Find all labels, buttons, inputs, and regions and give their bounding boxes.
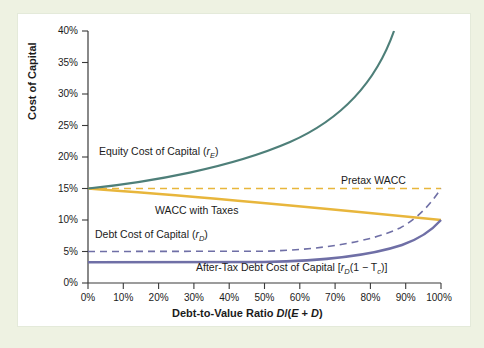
x-axis-title-plus: + xyxy=(299,307,312,319)
annotation-equity-text: Equity Cost of Capital ( xyxy=(99,145,206,157)
page-background: 40% 35% 30% 25% 20% 15% 10% 5% 0% 0% 10%… xyxy=(0,0,484,348)
x-tick-60: 60% xyxy=(283,292,317,303)
x-tick-0: 0% xyxy=(71,292,105,303)
annotation-equity-tail: ) xyxy=(215,145,219,157)
x-tick-30: 30% xyxy=(177,292,211,303)
x-tick-80: 80% xyxy=(353,292,387,303)
y-tick-35: 35% xyxy=(44,57,78,68)
annotation-debt-tail: ) xyxy=(204,228,208,240)
x-tick-70: 70% xyxy=(318,292,352,303)
y-tick-40: 40% xyxy=(44,25,78,36)
y-tick-30: 30% xyxy=(44,88,78,99)
x-tick-10: 10% xyxy=(106,292,140,303)
x-axis-title-d2: D xyxy=(311,307,319,319)
y-tick-25: 25% xyxy=(44,120,78,131)
series-wacc-with-taxes xyxy=(88,189,441,221)
series-equity-cost xyxy=(88,31,394,189)
x-tick-20: 20% xyxy=(142,292,176,303)
annotation-aftertax-debt-cost: After-Tax Debt Cost of Capital [rD(1 − T… xyxy=(196,261,387,276)
annotation-debt-cost: Debt Cost of Capital (rD) xyxy=(95,228,208,243)
x-axis-title-close: ) xyxy=(319,307,323,319)
annotation-wacc-with-taxes: WACC with Taxes xyxy=(155,204,238,216)
annotation-aftertax-tail2: )] xyxy=(381,261,387,273)
annotation-debt-text: Debt Cost of Capital ( xyxy=(95,228,195,240)
x-tick-50: 50% xyxy=(248,292,282,303)
y-tick-15: 15% xyxy=(44,183,78,194)
y-axis-title: Cost of Capital xyxy=(26,42,38,120)
y-tick-20: 20% xyxy=(44,151,78,162)
annotation-pretax-wacc: Pretax WACC xyxy=(341,174,406,186)
x-axis-title: Debt-to-Value Ratio D/(E + D) xyxy=(172,307,323,319)
annotation-aftertax-text: After-Tax Debt Cost of Capital [ xyxy=(196,261,341,273)
x-axis-title-e: E xyxy=(291,307,298,319)
x-tick-40: 40% xyxy=(212,292,246,303)
annotation-aftertax-tail: (1 − T xyxy=(350,261,378,273)
x-axis-title-text: Debt-to-Value Ratio xyxy=(172,307,277,319)
annotation-equity-cost: Equity Cost of Capital (rE) xyxy=(99,145,218,160)
y-tick-5: 5% xyxy=(44,246,78,257)
x-tick-90: 90% xyxy=(389,292,423,303)
y-tick-10: 10% xyxy=(44,214,78,225)
y-tick-0: 0% xyxy=(44,277,78,288)
x-tick-100: 100% xyxy=(422,292,456,303)
